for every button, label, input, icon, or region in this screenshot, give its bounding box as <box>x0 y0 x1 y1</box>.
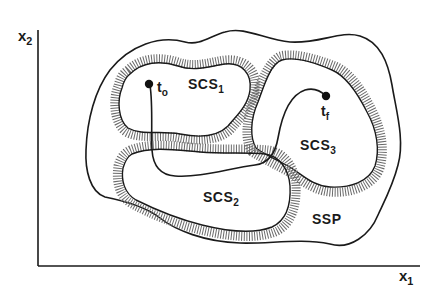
scs2-label: SCS2 <box>203 190 239 208</box>
scs2-label-sub: 2 <box>233 197 239 208</box>
ssp-label-text: SSP <box>312 211 342 227</box>
scs1-label: SCS1 <box>188 77 224 95</box>
scs1-boundary <box>119 63 250 136</box>
trajectory-path <box>150 85 326 176</box>
end-time-sub: f <box>326 111 329 122</box>
scs3-label-sub: 3 <box>330 145 336 156</box>
ssp-label: SSP <box>312 212 342 226</box>
scs3-label: SCS3 <box>300 138 336 156</box>
start-time-label: to <box>157 80 168 98</box>
scs3-region <box>247 55 382 192</box>
end-point <box>322 92 330 100</box>
y-axis-label: x2 <box>18 28 32 47</box>
diagram-canvas <box>0 0 432 300</box>
end-time-label: tf <box>321 104 329 122</box>
start-time-sub: o <box>162 87 168 98</box>
scs2-label-main: SCS <box>203 189 233 205</box>
scs3-boundary <box>252 59 378 187</box>
scs1-region <box>115 59 256 140</box>
state-space-diagram: x2 x1 SCS1 SCS3 SCS2 SSP to tf <box>0 0 432 300</box>
scs1-label-main: SCS <box>188 76 218 92</box>
x-axis-label-sub: 1 <box>407 275 413 287</box>
x-axis-label: x1 <box>399 268 413 287</box>
y-axis-label-sub: 2 <box>26 35 32 47</box>
scs1-hatch <box>115 59 256 140</box>
scs3-hatch <box>247 55 382 192</box>
scs3-label-main: SCS <box>300 137 330 153</box>
start-point <box>145 80 153 88</box>
scs1-label-sub: 1 <box>218 84 224 95</box>
